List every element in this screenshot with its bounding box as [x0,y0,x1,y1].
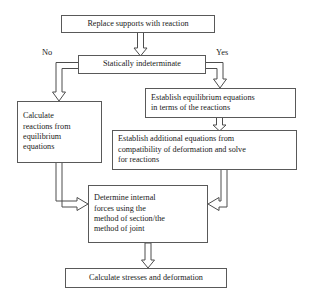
node-establish-additional[interactable]: Establish additional equations from comp… [112,130,297,170]
connector-additional-to-determine [208,170,227,211]
node-replace-supports-label: Replace supports with reaction [62,19,214,29]
node-calculate-reactions-label: Calculate reactions from equilibrium equ… [18,111,101,153]
node-statically-indeterminate[interactable]: Statically indeterminate [78,55,206,74]
node-determine-internal-forces-label: Determine internal forces using the meth… [89,193,207,235]
node-calculate-stresses-label: Calculate stresses and deformation [66,273,226,283]
flowchart-canvas: No Yes Replace supports with reaction St… [0,0,310,305]
connector-calculate-to-determine [56,163,88,211]
connector-determine-to-stresses [142,243,155,268]
node-statically-indeterminate-label: Statically indeterminate [79,59,205,69]
connector-replace-to-decision [134,32,147,56]
node-establish-equilibrium-label: Establish equilibrium equations in terms… [146,93,295,114]
node-determine-internal-forces[interactable]: Determine internal forces using the meth… [88,185,208,243]
branch-label-no: No [42,48,52,57]
node-establish-equilibrium[interactable]: Establish equilibrium equations in terms… [145,88,296,118]
connector-no-branch [53,63,79,102]
node-establish-additional-label: Establish additional equations from comp… [113,134,296,165]
node-calculate-stresses[interactable]: Calculate stresses and deformation [65,268,227,288]
connector-yes-branch [206,63,227,89]
node-replace-supports[interactable]: Replace supports with reaction [61,15,215,33]
branch-label-yes: Yes [216,48,228,57]
node-calculate-reactions[interactable]: Calculate reactions from equilibrium equ… [17,101,102,163]
